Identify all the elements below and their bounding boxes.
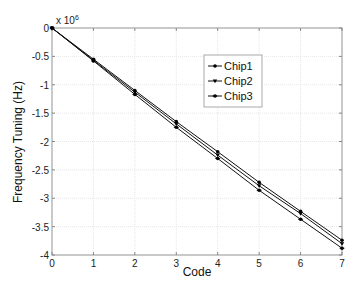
y-multiplier: x 106 xyxy=(56,14,79,26)
x-axis-label: Code xyxy=(183,265,212,279)
y-tick-label: -1 xyxy=(40,80,49,91)
y-tick-label: -2 xyxy=(40,137,49,148)
x-tick-label: 0 xyxy=(49,258,55,269)
y-tick-label: -3 xyxy=(40,193,49,204)
x-tick-label: 5 xyxy=(256,258,262,269)
legend: Chip1Chip2Chip3 xyxy=(204,55,262,107)
y-tick-label: -0.5 xyxy=(32,51,50,62)
y-axis-label: Frequency Tuning (Hz) xyxy=(11,81,25,203)
x-tick-label: 7 xyxy=(339,258,345,269)
y-tick-label: -1.5 xyxy=(32,108,50,119)
y-tick-label: 0 xyxy=(43,23,49,34)
y-tick-label: -4 xyxy=(40,250,49,261)
legend-label: Chip3 xyxy=(224,90,253,102)
legend-label: Chip1 xyxy=(224,60,253,72)
line-chart: 012345670-0.5-1-1.5-2-2.5-3-3.5-4 Code F… xyxy=(0,0,361,290)
x-tick-label: 6 xyxy=(298,258,304,269)
y-tick-label: -2.5 xyxy=(32,165,50,176)
x-tick-label: 3 xyxy=(174,258,180,269)
x-tick-label: 2 xyxy=(132,258,138,269)
x-tick-label: 4 xyxy=(215,258,221,269)
y-tick-label: -3.5 xyxy=(32,222,50,233)
x-tick-label: 1 xyxy=(91,258,97,269)
legend-label: Chip2 xyxy=(224,75,253,87)
